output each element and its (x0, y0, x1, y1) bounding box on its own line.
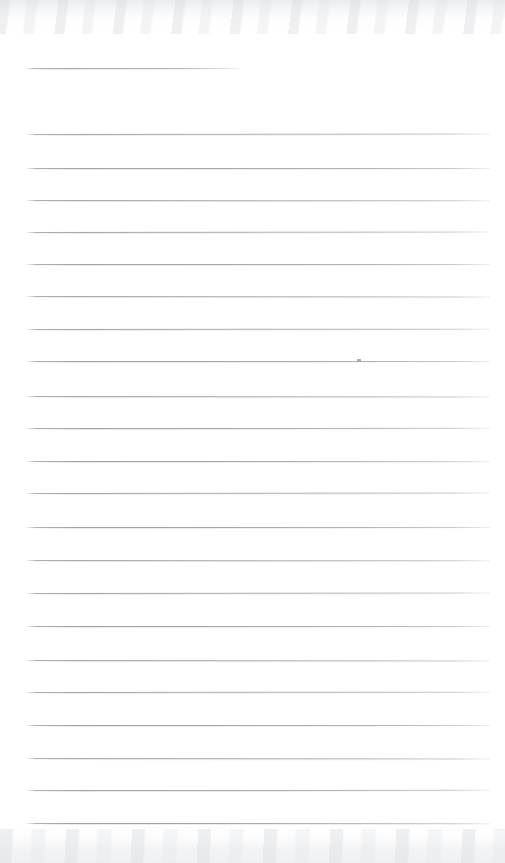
ruled-line (27, 660, 490, 661)
title-rule (27, 68, 240, 69)
ruled-line (27, 396, 490, 397)
ruled-line (27, 790, 490, 791)
ruled-line (27, 461, 490, 462)
stray-pencil-dot-mark (357, 359, 361, 362)
ruled-line (27, 823, 490, 824)
scan-edge-shadow-bottom (0, 829, 505, 863)
ruled-line (27, 232, 490, 233)
ruled-line (27, 168, 490, 169)
ruled-line (27, 626, 490, 627)
ruled-line (27, 361, 490, 362)
ruled-line (27, 725, 490, 726)
ruled-line (27, 560, 490, 561)
scan-edge-shadow-top (0, 0, 505, 34)
scanned-notepad-page (0, 0, 505, 863)
ruled-line (27, 493, 490, 494)
ruled-line (27, 134, 490, 135)
ruled-line (27, 428, 490, 429)
ruled-line (27, 296, 490, 297)
ruled-line (27, 593, 490, 594)
ruled-line (27, 264, 490, 265)
ruled-line (27, 329, 490, 330)
ruled-line (27, 692, 490, 693)
ruled-line (27, 200, 490, 201)
ruled-line (27, 758, 490, 759)
ruled-line (27, 527, 490, 528)
